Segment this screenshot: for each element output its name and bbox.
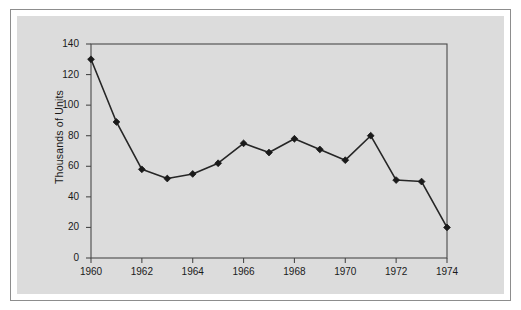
x-tick-label: 1968 — [274, 266, 314, 277]
data-point-marker — [138, 166, 145, 173]
data-point-marker — [444, 224, 451, 231]
data-point-marker — [291, 135, 298, 142]
x-tick-label: 1966 — [224, 266, 264, 277]
y-tick-label: 40 — [53, 191, 79, 202]
x-tick-label: 1972 — [376, 266, 416, 277]
x-tick-label: 1964 — [173, 266, 213, 277]
data-markers-group — [88, 56, 451, 231]
y-tick-label: 120 — [53, 69, 79, 80]
data-point-marker — [393, 177, 400, 184]
line-chart: Thousands of Units 020406080100120140 19… — [0, 0, 521, 310]
data-point-marker — [316, 146, 323, 153]
x-tick-label: 1960 — [71, 266, 111, 277]
data-point-marker — [164, 175, 171, 182]
data-point-marker — [113, 119, 120, 126]
x-tick-label: 1974 — [427, 266, 467, 277]
y-tick-label: 140 — [53, 38, 79, 49]
y-tick-label: 0 — [53, 252, 79, 263]
y-tick-label: 80 — [53, 130, 79, 141]
data-point-marker — [266, 149, 273, 156]
y-tick-label: 20 — [53, 221, 79, 232]
data-series-group — [91, 59, 447, 227]
x-tick-label: 1970 — [325, 266, 365, 277]
series-line — [91, 59, 447, 227]
data-point-marker — [189, 171, 196, 178]
data-point-marker — [88, 56, 95, 63]
x-tick-label: 1962 — [122, 266, 162, 277]
data-point-marker — [418, 178, 425, 185]
y-tick-label: 100 — [53, 99, 79, 110]
chart-figure: Thousands of Units 020406080100120140 19… — [0, 0, 521, 310]
y-tick-label: 60 — [53, 160, 79, 171]
